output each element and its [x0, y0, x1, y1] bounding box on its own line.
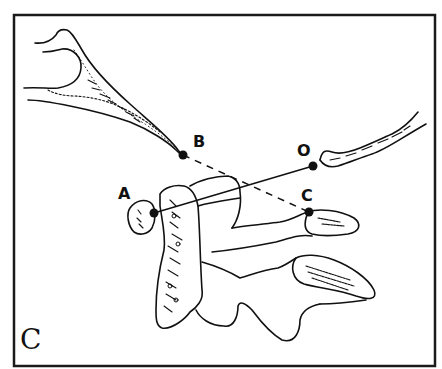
point-o [309, 162, 318, 171]
line-b-c [183, 155, 309, 212]
panel-label: C [20, 326, 41, 354]
upper-right-bone [320, 112, 426, 167]
point-a [150, 209, 159, 218]
label-c: C [301, 188, 313, 204]
label-b: B [193, 134, 205, 150]
diagram-canvas [0, 0, 442, 369]
label-a: A [118, 186, 130, 202]
point-b [179, 151, 188, 160]
point-c [305, 208, 314, 217]
anatomical-diagram: A B O C C [0, 0, 442, 369]
upper-left-bone [24, 30, 184, 156]
figure-frame [14, 15, 435, 366]
line-a-o [154, 166, 313, 213]
vertebra [128, 176, 375, 341]
label-o: O [297, 143, 311, 159]
